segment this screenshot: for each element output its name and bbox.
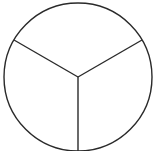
divider-right [78,40,142,77]
circle-thirds-diagram [0,0,153,151]
divider-left [14,40,78,77]
